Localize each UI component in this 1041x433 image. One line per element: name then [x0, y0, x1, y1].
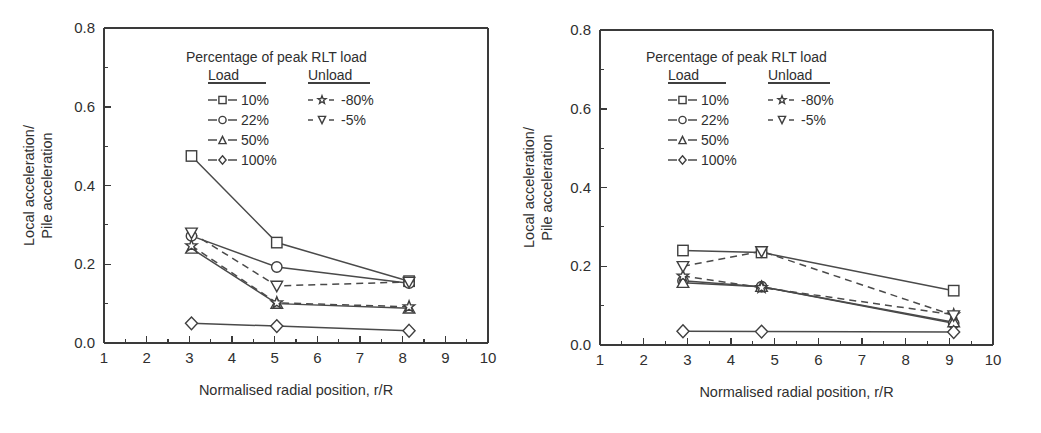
legend-item-load-100pct[interactable]: 100% — [208, 152, 277, 168]
marker-square-10pct — [949, 285, 959, 295]
x-tick-label: 6 — [814, 351, 822, 368]
legend-item-label: 100% — [241, 152, 277, 168]
legend-group-load-label: Load — [208, 67, 239, 83]
legend-item-load-50pct[interactable]: 50% — [668, 132, 729, 148]
legend-item-label: -5% — [341, 112, 366, 128]
x-axis-title: Normalised radial position, r/R — [699, 384, 893, 400]
y-tick-label: 0.8 — [570, 21, 591, 38]
legend-marker-triangle-down — [778, 116, 785, 123]
marker-square-10pct — [678, 245, 688, 255]
legend-item-label: 50% — [241, 132, 269, 148]
chart-right-svg: 123456789100.00.20.40.60.8Normalised rad… — [500, 0, 1041, 433]
marker-diamond-100pct — [677, 325, 689, 338]
marker-triangle-down--5pct — [271, 281, 283, 291]
legend-item-label: -80% — [801, 92, 834, 108]
x-tick-label: 9 — [441, 349, 449, 366]
legend-marker-triangle-down — [318, 116, 325, 123]
legend-title: Percentage of peak RLT load — [646, 49, 827, 65]
x-ticks: 12345678910 — [100, 336, 497, 366]
x-tick-label: 6 — [313, 349, 321, 366]
legend-group-unload-label: Unload — [308, 67, 352, 83]
y-ticks: 0.00.20.40.60.8 — [74, 19, 111, 351]
series-markers-10% — [678, 245, 959, 296]
y-axis-title: Local acceleration/Pile acceleration — [521, 126, 555, 248]
marker-diamond-100pct — [403, 324, 415, 337]
chart-panel-right: 123456789100.00.20.40.60.8Normalised rad… — [500, 0, 1041, 433]
series--80% — [191, 246, 409, 307]
figure-root: 123456789100.00.20.40.60.8Normalised rad… — [0, 0, 1041, 433]
x-tick-label: 5 — [270, 349, 278, 366]
legend-item-unload-neg80pct[interactable]: -80% — [768, 92, 834, 108]
x-tick-label: 5 — [770, 351, 778, 368]
series-line--5% — [191, 233, 409, 286]
x-tick-label: 3 — [185, 349, 193, 366]
series-markers-10% — [186, 151, 414, 287]
legend-item-label: 22% — [701, 112, 729, 128]
legend-item-unload-neg5pct[interactable]: -5% — [768, 112, 826, 128]
y-tick-label: 0.8 — [74, 19, 95, 36]
x-tick-label: 3 — [683, 351, 691, 368]
y-tick-label: 0.6 — [570, 100, 591, 117]
legend-marker-diamond — [679, 156, 686, 164]
legend-marker-square — [679, 96, 686, 103]
series--5% — [191, 233, 409, 286]
series-100% — [683, 331, 954, 332]
legend-item-load-10pct[interactable]: 10% — [208, 92, 269, 108]
chart-left-svg: 123456789100.00.20.40.60.8Normalised rad… — [0, 0, 520, 433]
legend-marker-triangle-up — [679, 136, 686, 143]
series-group — [677, 245, 960, 338]
x-tick-label: 9 — [945, 351, 953, 368]
marker-square-10pct — [186, 151, 196, 161]
series-line--80% — [191, 246, 409, 307]
x-tick-label: 7 — [858, 351, 866, 368]
series-markers--80% — [186, 240, 415, 312]
series-markers-50% — [186, 243, 415, 313]
series-line-100% — [191, 323, 409, 330]
legend-marker-star — [778, 96, 786, 104]
legend-item-load-22pct[interactable]: 22% — [668, 112, 729, 128]
legend-item-label: 10% — [241, 92, 269, 108]
legend-item-label: 10% — [701, 92, 729, 108]
series-line-22% — [191, 236, 409, 283]
y-tick-label: 0.2 — [570, 257, 591, 274]
legend-item-load-10pct[interactable]: 10% — [668, 92, 729, 108]
x-axis-title: Normalised radial position, r/R — [199, 382, 393, 398]
axes — [104, 28, 488, 343]
y-tick-label: 0.4 — [74, 177, 95, 194]
legend-item-unload-neg5pct[interactable]: -5% — [308, 112, 366, 128]
x-tick-label: 4 — [727, 351, 735, 368]
y-axis-title-line2: Pile acceleration — [539, 134, 555, 240]
marker-diamond-100pct — [756, 325, 768, 338]
x-tick-label: 2 — [639, 351, 647, 368]
legend-item-label: 50% — [701, 132, 729, 148]
legend: Percentage of peak RLT loadLoadUnload10%… — [186, 49, 374, 168]
y-tick-label: 0.4 — [570, 179, 591, 196]
legend-item-load-100pct[interactable]: 100% — [668, 152, 737, 168]
y-tick-label: 0.0 — [74, 334, 95, 351]
legend-marker-star — [318, 96, 326, 104]
legend-item-load-50pct[interactable]: 50% — [208, 132, 269, 148]
x-ticks: 12345678910 — [596, 338, 1002, 368]
legend-group-unload-label: Unload — [768, 67, 812, 83]
legend-item-load-22pct[interactable]: 22% — [208, 112, 269, 128]
legend-item-unload-neg80pct[interactable]: -80% — [308, 92, 374, 108]
legend-group-load-label: Load — [668, 67, 699, 83]
series-line-22% — [683, 281, 954, 324]
x-tick-label: 1 — [100, 349, 108, 366]
x-tick-label: 7 — [356, 349, 364, 366]
series-line-10% — [191, 156, 409, 281]
series-10% — [191, 156, 409, 281]
y-tick-label: 0.2 — [74, 255, 95, 272]
marker-circle-22pct — [272, 262, 282, 272]
y-axis-title-line1: Local acceleration/ — [521, 126, 537, 248]
y-axis-title-line1: Local acceleration/ — [21, 124, 37, 246]
x-tick-label: 1 — [596, 351, 604, 368]
legend-marker-square — [219, 96, 226, 103]
legend-title: Percentage of peak RLT load — [186, 49, 367, 65]
series-group — [185, 151, 415, 337]
x-tick-label: 8 — [901, 351, 909, 368]
y-axis-title-line2: Pile acceleration — [39, 132, 55, 238]
legend: Percentage of peak RLT loadLoadUnload10%… — [646, 49, 834, 168]
x-tick-label: 10 — [480, 349, 497, 366]
legend-item-label: -80% — [341, 92, 374, 108]
